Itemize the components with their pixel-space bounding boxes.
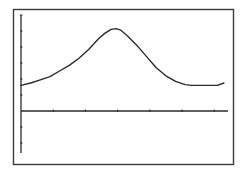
- line-chart: [0, 0, 245, 176]
- plotted-curve: [21, 29, 224, 86]
- graph-screen: [0, 0, 245, 176]
